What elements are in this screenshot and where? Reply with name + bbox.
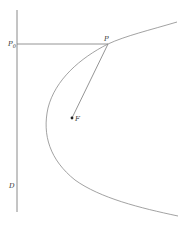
label-foot-subscript: 0	[13, 43, 17, 49]
segment-p-f	[72, 44, 108, 118]
parabola-diagram: F P P0 D	[0, 0, 189, 230]
label-point-p: P	[103, 35, 109, 43]
parabola-curve	[46, 22, 178, 216]
focus-point	[71, 117, 74, 120]
label-foot-p0: P0	[7, 40, 17, 49]
label-directrix: D	[8, 182, 15, 190]
label-focus: F	[74, 115, 81, 123]
